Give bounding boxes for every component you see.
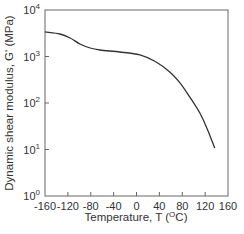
x-tick-label: 120	[196, 200, 214, 212]
y-tick-label: 104	[23, 2, 40, 16]
y-tick-label: 101	[23, 142, 40, 156]
y-tick-label: 103	[23, 49, 40, 63]
x-tick-label: 160	[219, 200, 237, 212]
data-series-line	[45, 32, 215, 148]
x-tick-label: -120	[57, 200, 79, 212]
modulus-temperature-chart: -160-120-80-4004080120160 10010110210310…	[0, 0, 244, 234]
x-axis-ticks: -160-120-80-4004080120160	[34, 192, 237, 212]
y-tick-label: 102	[23, 95, 40, 109]
plot-frame	[45, 10, 228, 196]
x-tick-label: -160	[34, 200, 56, 212]
x-axis-label: Temperature, T (OC)	[85, 210, 188, 223]
y-axis-label: Dynamic shear modulus, G' (MPa)	[3, 15, 15, 191]
